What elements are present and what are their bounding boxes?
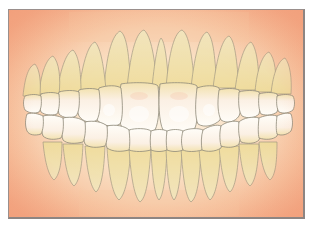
dental-illustration [8, 9, 305, 219]
teeth-artwork [9, 10, 305, 219]
